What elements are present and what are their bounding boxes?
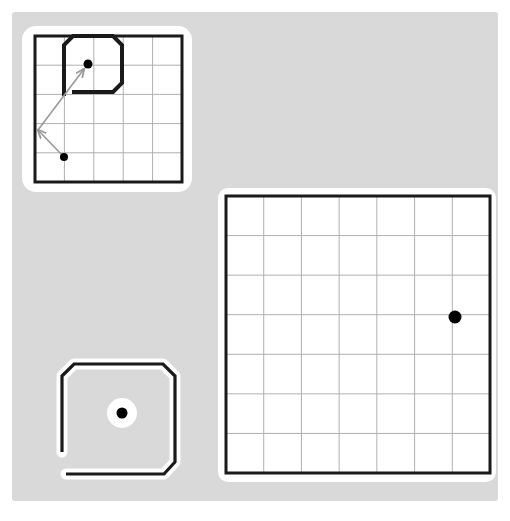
large-grid-map-card xyxy=(218,188,496,482)
scene-stage xyxy=(0,0,510,521)
small-grid-map-with-arrows-card xyxy=(22,26,192,192)
